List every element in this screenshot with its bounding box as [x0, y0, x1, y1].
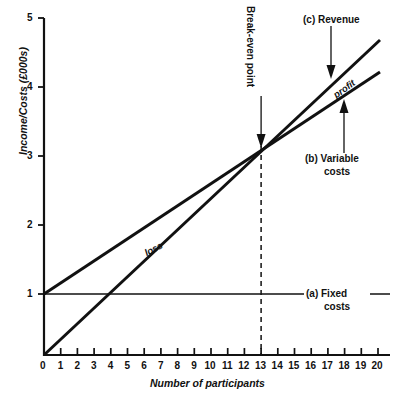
- x-tick-label-2: 2: [74, 361, 80, 371]
- x-tick-label-6: 6: [141, 361, 147, 371]
- y-tick-label-2: 2: [27, 220, 33, 230]
- x-tick-label-11: 11: [222, 361, 233, 371]
- x-tick-label-10: 10: [205, 361, 216, 371]
- x-tick-label-3: 3: [91, 361, 97, 371]
- revenue-arrow-head: [327, 65, 336, 79]
- x-tick-label-16: 16: [305, 361, 316, 371]
- revenue-annotation-label: (c) Revenue: [303, 14, 360, 26]
- x-tick-label-15: 15: [288, 361, 299, 371]
- x-tick-label-13: 13: [255, 361, 266, 371]
- y-tick-label-1: 1: [27, 289, 33, 299]
- x-tick-label-12: 12: [238, 361, 249, 371]
- chart-canvas: [0, 0, 408, 398]
- variable-costs-annotation-label-line2: costs: [324, 166, 350, 178]
- y-axis-title: Income/Costs (£000s): [18, 47, 29, 155]
- break-even-arrow-head: [257, 134, 266, 148]
- variable-costs-annotation-label-line1: (b) Variable: [305, 153, 359, 165]
- x-tick-label-7: 7: [158, 361, 164, 371]
- fixed-costs-annotation-label-line1: (a) Fixed: [306, 288, 347, 300]
- x-tick-label-5: 5: [125, 361, 131, 371]
- break-even-point-label: Break-even point: [245, 6, 257, 87]
- fixed-costs-annotation-label-line2: costs: [324, 301, 350, 313]
- x-axis-ticks: [44, 348, 378, 355]
- x-tick-label-8: 8: [175, 361, 181, 371]
- x-tick-label-0: 0: [40, 361, 46, 371]
- series-variable-costs: [44, 72, 380, 294]
- x-tick-label-9: 9: [191, 361, 197, 371]
- x-tick-label-1: 1: [58, 361, 64, 371]
- x-tick-label-20: 20: [372, 361, 383, 371]
- x-axis-title: Number of participants: [150, 378, 265, 389]
- variable-costs-arrow-head: [340, 99, 349, 113]
- x-tick-label-17: 17: [322, 361, 333, 371]
- x-tick-label-14: 14: [272, 361, 283, 371]
- break-even-chart: 5 4 3 2 1 0 1 2 3 4 5 6 7 8 9 10 11 12 1…: [0, 0, 408, 398]
- x-tick-label-4: 4: [108, 361, 114, 371]
- x-tick-label-18: 18: [338, 361, 349, 371]
- y-tick-label-5: 5: [27, 13, 33, 23]
- x-tick-label-19: 19: [355, 361, 366, 371]
